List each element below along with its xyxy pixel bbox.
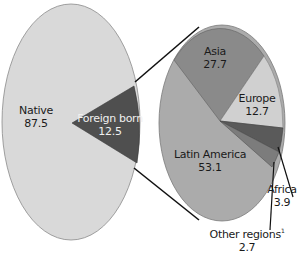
label-africa-name: Africa bbox=[267, 183, 297, 196]
label-foreign-value: 12.5 bbox=[77, 125, 143, 138]
label-other-value: 2.7 bbox=[210, 241, 285, 254]
label-africa-value: 3.9 bbox=[267, 196, 297, 209]
label-europe-name: Europe bbox=[239, 92, 276, 105]
label-native: Native 87.5 bbox=[19, 104, 53, 130]
label-foreign-born: Foreign born 12.5 bbox=[77, 112, 143, 138]
label-asia: Asia 27.7 bbox=[203, 45, 226, 71]
label-asia-name: Asia bbox=[203, 45, 226, 58]
label-other-name-row: Other regions1 bbox=[210, 228, 285, 241]
label-europe-value: 12.7 bbox=[239, 105, 276, 118]
label-native-name: Native bbox=[19, 104, 53, 117]
label-africa: Africa 3.9 bbox=[267, 183, 297, 209]
footnote-marker: 1 bbox=[281, 227, 285, 234]
label-europe: Europe 12.7 bbox=[239, 92, 276, 118]
label-foreign-name: Foreign born bbox=[77, 112, 143, 125]
label-latin-america: Latin America 53.1 bbox=[174, 148, 246, 174]
label-native-value: 87.5 bbox=[19, 117, 53, 130]
label-other-regions: Other regions1 2.7 bbox=[210, 228, 285, 254]
label-asia-value: 27.7 bbox=[203, 58, 226, 71]
label-latin-name: Latin America bbox=[174, 148, 246, 161]
label-latin-value: 53.1 bbox=[174, 161, 246, 174]
label-other-name: Other regions bbox=[210, 228, 281, 241]
